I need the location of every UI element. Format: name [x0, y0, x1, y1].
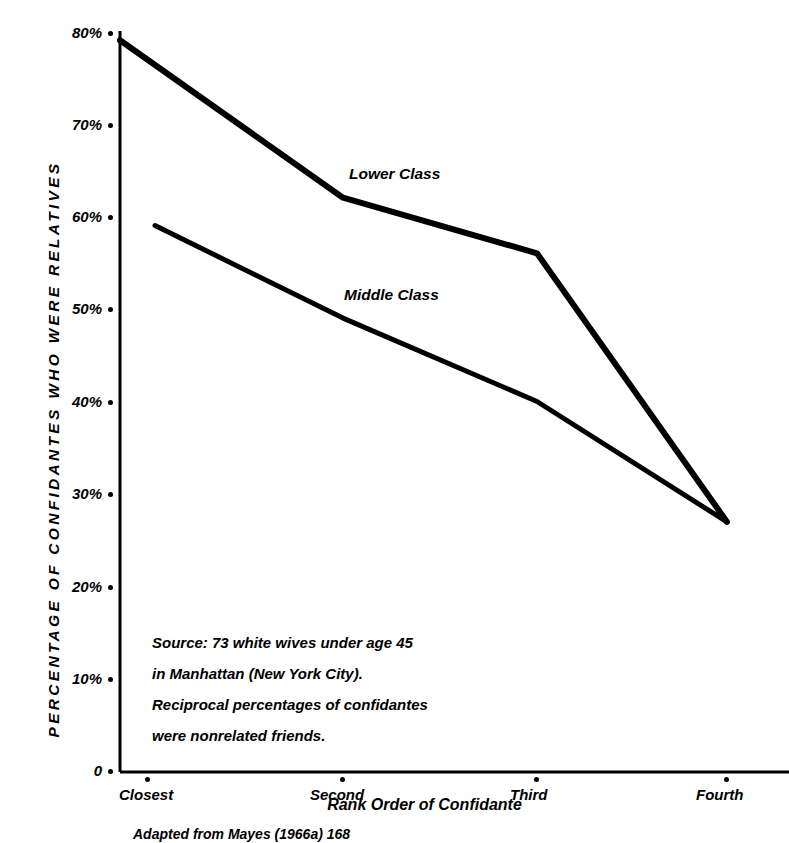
source-note-line-2: in Manhattan (New York City). — [152, 658, 428, 689]
figure-caption: Adapted from Mayes (1966a) 168 — [133, 826, 350, 842]
series-label-middle-class: Middle Class — [344, 286, 439, 304]
x-tick-dot-second — [340, 777, 345, 782]
x-tick-dot-closest — [145, 777, 150, 782]
source-note-line-3: Reciprocal percentages of confidantes — [152, 689, 428, 720]
chart-figure: PERCENTAGE OF CONFIDANTES WHO WERE RELAT… — [0, 0, 789, 843]
series-line-middle-class — [155, 226, 727, 522]
source-note-line-4: were nonrelated friends. — [152, 720, 428, 751]
x-tick-dot-fourth — [724, 777, 729, 782]
source-note: Source: 73 white wives under age 45 in M… — [152, 627, 428, 751]
x-axis-title: Rank Order of Confidante — [0, 796, 789, 814]
series-line-lower-class — [120, 40, 727, 522]
series-label-lower-class: Lower Class — [349, 165, 440, 183]
source-note-line-1: Source: 73 white wives under age 45 — [152, 627, 428, 658]
x-tick-dot-third — [534, 777, 539, 782]
